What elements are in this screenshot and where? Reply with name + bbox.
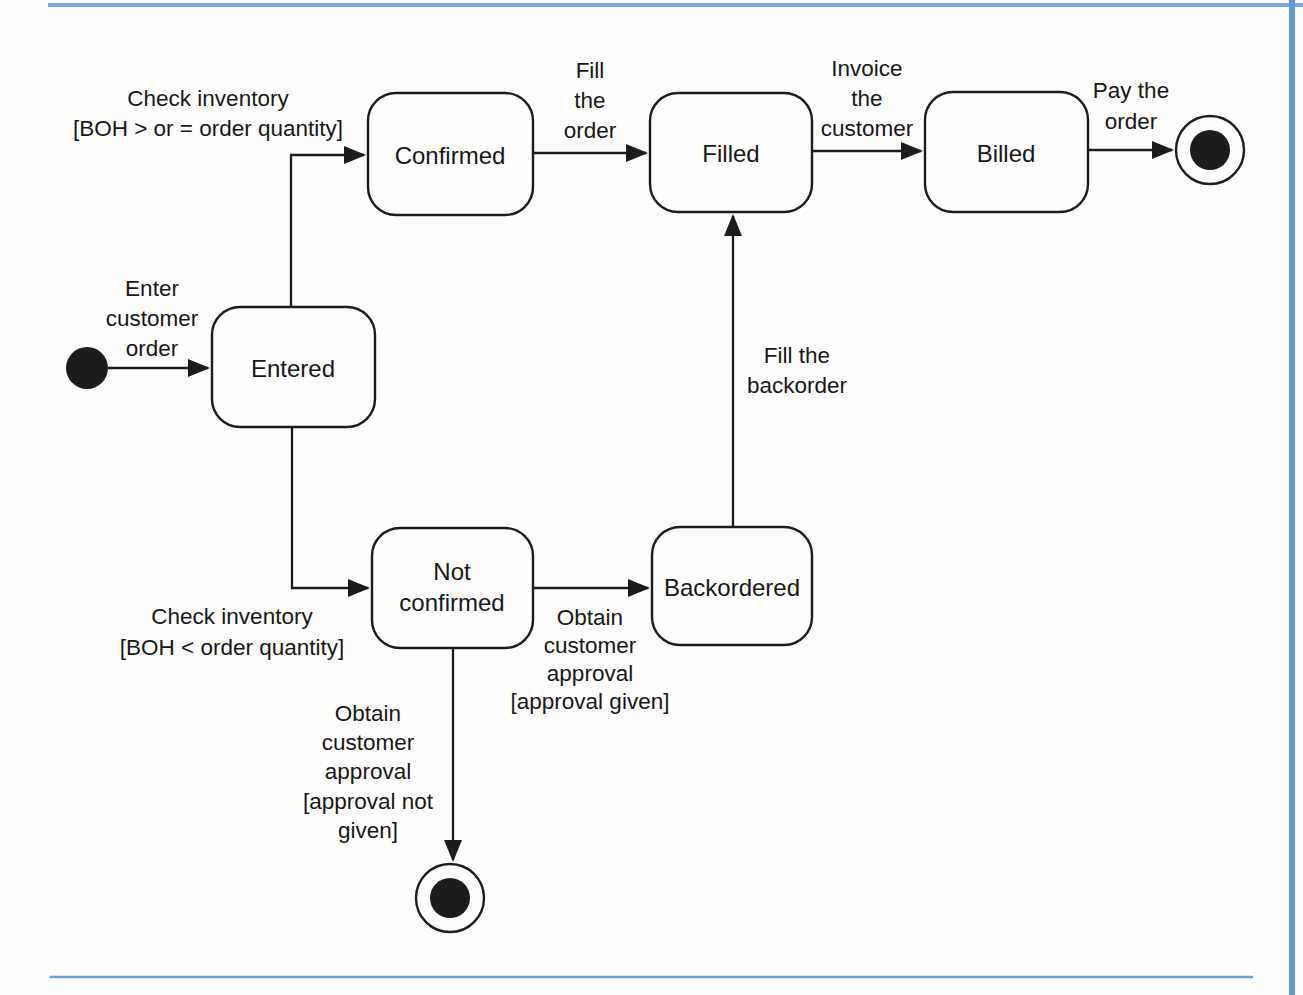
svg-text:[approval given]: [approval given] (511, 689, 670, 714)
state-backordered: Backordered (652, 527, 812, 645)
svg-text:approval: approval (547, 661, 633, 686)
svg-text:Backordered: Backordered (664, 574, 800, 601)
svg-text:Not: Not (433, 558, 471, 585)
svg-text:Invoice: Invoice (831, 56, 902, 81)
label-obtain-approval-given: Obtain customer approval [approval given… (511, 605, 670, 714)
state-confirmed: Confirmed (368, 93, 533, 215)
svg-text:[approval not: [approval not (303, 789, 434, 814)
svg-text:Obtain: Obtain (335, 701, 401, 726)
label-enter-customer-order: Enter customer order (106, 276, 199, 361)
state-nodes: Entered Confirmed Filled Billed Not conf… (212, 92, 1088, 648)
svg-text:Obtain: Obtain (557, 605, 623, 630)
final-state-icon-paid (1176, 116, 1244, 184)
svg-text:Billed: Billed (977, 140, 1036, 167)
svg-text:customer: customer (821, 116, 914, 141)
svg-text:the: the (574, 88, 605, 113)
svg-text:order: order (1105, 109, 1158, 134)
state-billed: Billed (925, 92, 1088, 212)
svg-text:Filled: Filled (702, 140, 759, 167)
svg-text:approval: approval (325, 759, 411, 784)
transition-entered-to-not-confirmed (292, 427, 368, 588)
initial-state-icon (66, 347, 108, 389)
svg-text:Entered: Entered (251, 355, 335, 382)
svg-text:[BOH < order quantity]: [BOH < order quantity] (120, 635, 344, 660)
svg-text:Fill: Fill (576, 58, 605, 83)
transition-connectors (108, 150, 1172, 860)
state-not-confirmed: Not confirmed (372, 528, 533, 648)
svg-text:[BOH > or = order quantity]: [BOH > or = order quantity] (73, 116, 343, 141)
svg-text:Pay the: Pay the (1093, 78, 1169, 103)
svg-text:Fill the: Fill the (764, 343, 830, 368)
label-obtain-approval-not-given: Obtain customer approval [approval not g… (303, 701, 434, 843)
label-invoice-the-customer: Invoice the customer (821, 56, 914, 141)
svg-text:order: order (564, 118, 617, 143)
svg-text:customer: customer (106, 306, 199, 331)
svg-text:given]: given] (338, 818, 398, 843)
transition-entered-to-confirmed (291, 155, 364, 307)
svg-text:the: the (851, 86, 882, 111)
label-fill-the-order: Fill the order (564, 58, 617, 143)
svg-text:customer: customer (322, 730, 415, 755)
svg-text:Enter: Enter (125, 276, 179, 301)
svg-text:backorder: backorder (747, 373, 848, 398)
scanned-book-page: Enter customer order Check inventory [BO… (0, 0, 1303, 995)
label-pay-the-order: Pay the order (1093, 78, 1169, 134)
label-check-inventory-lt: Check inventory [BOH < order quantity] (120, 604, 344, 660)
svg-text:confirmed: confirmed (399, 589, 504, 616)
svg-text:Check inventory: Check inventory (151, 604, 313, 629)
svg-text:customer: customer (544, 633, 637, 658)
svg-text:Confirmed: Confirmed (395, 142, 506, 169)
label-fill-the-backorder: Fill the backorder (747, 343, 848, 398)
svg-text:order: order (126, 336, 179, 361)
final-state-icon-not-approved (416, 864, 484, 932)
svg-text:Check inventory: Check inventory (127, 86, 289, 111)
state-filled: Filled (650, 93, 812, 212)
label-check-inventory-ge: Check inventory [BOH > or = order quanti… (73, 86, 343, 141)
state-entered: Entered (212, 307, 375, 427)
order-state-diagram: Enter customer order Check inventory [BO… (0, 0, 1303, 995)
